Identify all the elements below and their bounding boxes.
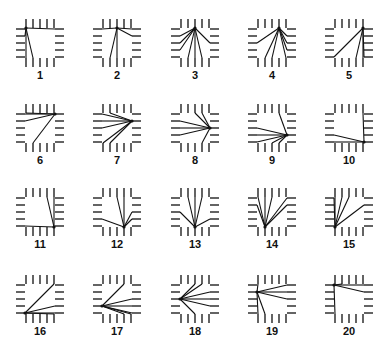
hub-node [332,283,335,286]
connection-line [265,205,287,227]
panel-label: 2 [114,69,120,81]
connection-line [180,128,210,135]
connection-line [257,135,287,142]
connection-line [180,121,210,128]
connection-line [102,28,117,29]
hub-node [277,26,280,29]
panel-2: 2 [93,19,141,81]
hub-node [23,311,26,314]
connection-line [334,135,364,142]
connection-line [25,284,54,313]
connection-line [257,128,287,135]
connection-line [25,226,54,227]
panel-11: 11 [16,188,64,250]
connection-line [102,219,124,227]
hub-node [130,119,133,122]
panel-label: 7 [114,154,120,166]
hub-node [362,140,365,143]
connection-line [110,28,117,58]
connection-line [195,28,202,58]
connection-line [195,197,202,227]
hub-node [100,304,103,307]
connection-line [356,28,363,58]
hub-node [285,133,288,136]
panel-label: 18 [189,325,201,337]
panel-19: 19 [248,275,296,337]
panel-label: 13 [189,238,201,250]
panel-label: 4 [269,69,276,81]
connection-line [202,128,210,143]
hub-node [193,225,196,228]
panel-label: 14 [266,238,279,250]
panel-16: 16 [16,275,64,337]
panel-label: 20 [343,325,355,337]
panel-13: 13 [171,188,219,250]
connection-line [335,197,349,227]
panel-10: 10 [325,104,373,166]
connection-line [279,113,287,135]
connection-line [180,299,210,306]
panel-label: 12 [111,238,123,250]
hub-node [24,26,27,29]
panel-15: 15 [325,188,373,250]
connection-line [257,285,287,292]
connection-line [257,292,287,299]
connection-line [102,299,132,306]
panel-label: 16 [34,325,46,337]
hub-node [208,126,211,129]
hub-node [333,225,336,228]
connection-line [188,197,195,227]
panel-6: 6 [16,104,64,166]
hub-node [53,112,56,115]
hub-node [361,26,364,29]
panel-20: 20 [325,275,373,337]
panel-17: 17 [93,275,141,337]
hub-node [115,26,118,29]
panel-label: 17 [111,325,123,337]
pin-connection-diagram-grid: 1234567891011121314151617181920 [0,0,388,353]
panel-9: 9 [248,104,296,166]
hub-node [193,26,196,29]
panel-label: 9 [269,154,275,166]
connection-line [25,306,55,313]
panel-label: 5 [346,69,352,81]
panel-label: 3 [192,69,198,81]
panel-label: 15 [343,238,355,250]
hub-node [263,225,266,228]
connection-line [334,285,335,314]
hub-node [178,297,181,300]
connection-line [334,28,363,57]
connection-line [102,284,124,306]
panel-7: 7 [93,104,141,166]
connection-line [117,197,124,227]
panel-label: 10 [343,154,355,166]
connection-line [334,285,364,292]
panel-5: 5 [325,19,373,81]
panel-14: 14 [248,188,296,250]
panel-3: 3 [171,19,219,81]
panel-8: 8 [171,104,219,166]
connection-line [110,121,132,143]
panel-label: 19 [266,325,278,337]
panel-1: 1 [16,19,64,81]
connection-line [26,28,55,29]
panel-label: 8 [192,154,198,166]
connection-line [102,306,131,314]
connection-line [47,197,54,227]
connection-line [195,219,210,227]
panel-12: 12 [93,188,141,250]
panel-label: 6 [37,154,43,166]
connection-line [26,28,33,58]
hub-node [52,225,55,228]
panel-label: 11 [34,238,46,250]
panel-label: 1 [37,69,43,81]
panel-18: 18 [171,275,219,337]
connection-line [363,113,364,142]
hub-node [255,290,258,293]
panel-4: 4 [248,19,296,81]
hub-node [122,225,125,228]
